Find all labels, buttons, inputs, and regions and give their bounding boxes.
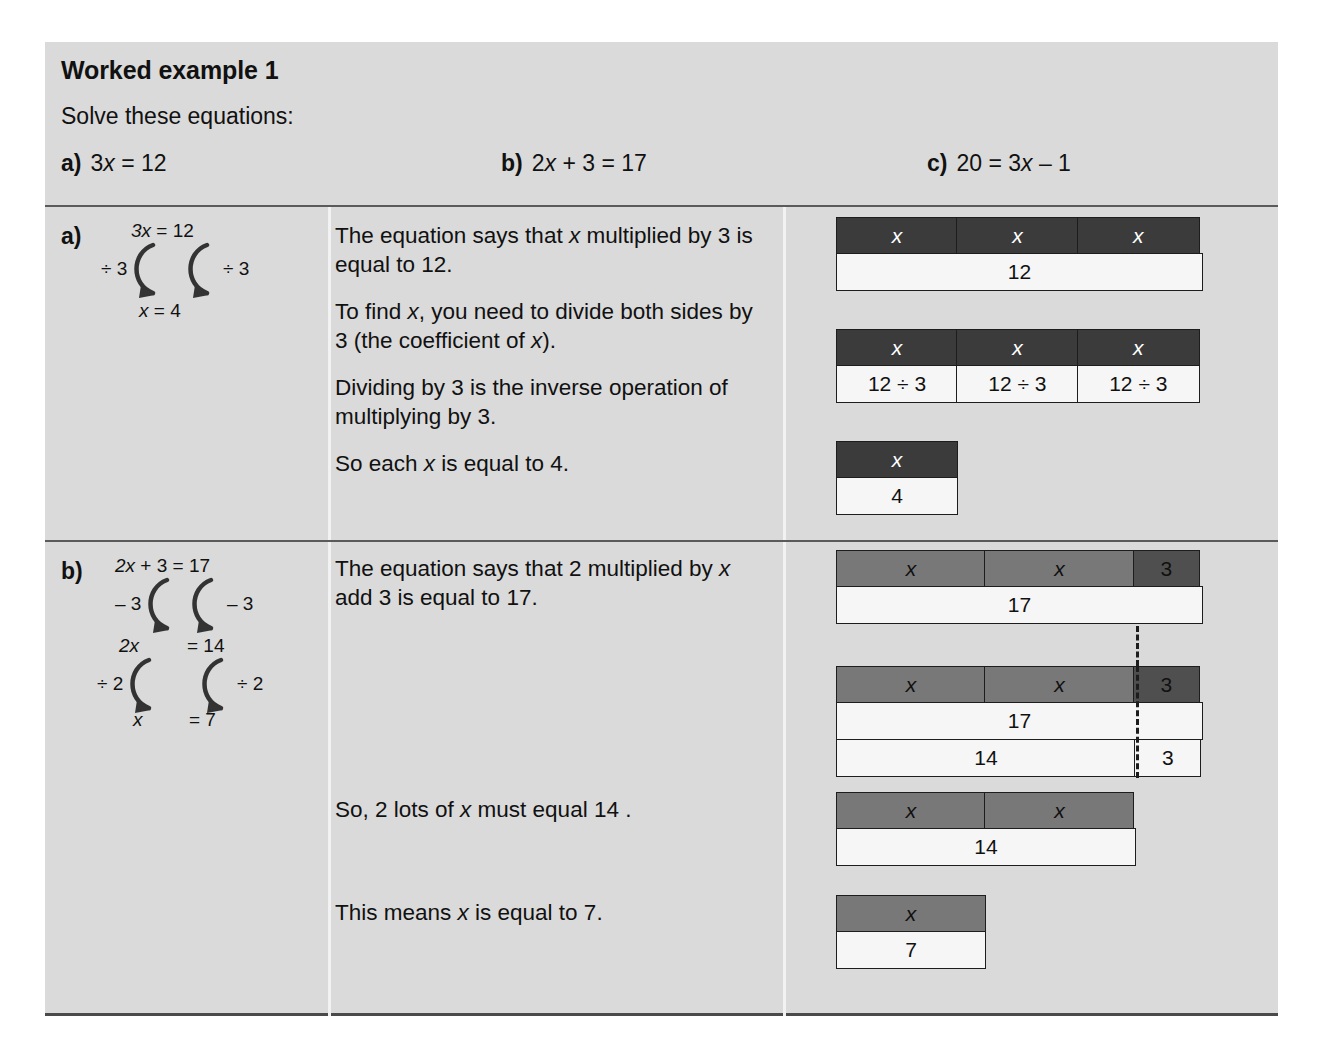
working-column-a: a) 3x = 12 ÷ 3 ÷ 3 x = 4 [45, 207, 328, 540]
bar-model-row: x x x [836, 217, 1203, 255]
header-equation-b: b)2x + 3 = 17 [501, 150, 647, 177]
header-equation-a-label: a) [61, 150, 81, 176]
svg-text:– 3: – 3 [227, 593, 253, 614]
bar-model-row: 17 [836, 702, 1203, 740]
bar-cell: x [836, 441, 958, 479]
bar-cell: x [1077, 217, 1200, 255]
bar-model-row: 12 ÷ 3 12 ÷ 3 12 ÷ 3 [836, 365, 1200, 403]
svg-text:÷ 3: ÷ 3 [101, 258, 127, 279]
bar-model-row: x x [836, 792, 1136, 830]
bar-model-row: 17 [836, 586, 1203, 624]
working-b-diagram: 2x + 3 = 17 – 3 – 3 2x = 14 ÷ 2 ÷ 2 x [97, 548, 327, 728]
explanation-column-a: The equation says that x multiplied by 3… [331, 207, 783, 540]
working-column-b: b) 2x + 3 = 17 – 3 – 3 2x = 14 ÷ 2 ÷ 2 [45, 540, 328, 1016]
bar-cell: x [836, 792, 986, 830]
bar-cell: x [1077, 329, 1200, 367]
bar-cell: x [956, 217, 1078, 255]
bar-cell: 17 [836, 702, 1203, 740]
bar-model-row: 7 [836, 931, 986, 969]
bar-model-a-3: x 4 [836, 441, 958, 515]
svg-text:2x + 3 = 17: 2x + 3 = 17 [114, 555, 210, 576]
row-a-letter: a) [61, 223, 81, 250]
bar-cell: x [836, 895, 986, 933]
bar-cell: 3 [1134, 739, 1201, 777]
bar-cell: x [836, 666, 986, 704]
svg-text:÷ 2: ÷ 2 [237, 673, 263, 694]
explanation-b-p1: The equation says that 2 multiplied by x… [335, 554, 765, 612]
bar-cell: x [956, 329, 1078, 367]
header-equation-a: a)3x = 12 [61, 150, 167, 177]
bar-cell: 3 [1133, 550, 1200, 588]
column-divider-1 [328, 207, 331, 540]
bar-cell: 12 ÷ 3 [1077, 365, 1200, 403]
bar-model-b-1: x x 3 17 [836, 550, 1203, 624]
explanation-a-p4: So each x is equal to 4. [335, 449, 765, 478]
bar-cell: 12 ÷ 3 [956, 365, 1078, 403]
svg-text:÷ 2: ÷ 2 [97, 673, 123, 694]
dashed-guide-line [1136, 666, 1139, 778]
bar-model-row: 4 [836, 477, 958, 515]
bar-cell: 3 [1133, 666, 1200, 704]
working-a-diagram: 3x = 12 ÷ 3 ÷ 3 x = 4 [101, 213, 321, 323]
table-row-a: a) 3x = 12 ÷ 3 ÷ 3 x = 4 The equation sa… [45, 207, 1278, 540]
explanation-b-p3: This means x is equal to 7. [335, 898, 765, 927]
svg-text:– 3: – 3 [115, 593, 141, 614]
bar-model-b-4: x 7 [836, 895, 986, 969]
explanation-a-p2: To find x, you need to divide both sides… [335, 297, 765, 355]
bar-cell: 4 [836, 477, 958, 515]
header-equation-c-text: 20 = 3x – 1 [956, 150, 1070, 176]
bar-model-row: x x 3 [836, 550, 1203, 588]
svg-text:÷ 3: ÷ 3 [223, 258, 249, 279]
examples-table: a) 3x = 12 ÷ 3 ÷ 3 x = 4 The equation sa… [45, 207, 1278, 1016]
worked-example-panel: Worked example 1 Solve these equations: … [45, 42, 1278, 1016]
row-b-letter: b) [61, 558, 83, 585]
bar-cell: x [984, 550, 1134, 588]
bar-cell: x [984, 666, 1134, 704]
bar-cell: x [836, 550, 986, 588]
svg-text:2x: 2x [118, 635, 141, 656]
bar-model-row: 12 [836, 253, 1203, 291]
svg-text:3x = 12: 3x = 12 [131, 220, 194, 241]
bar-cell: x [836, 329, 958, 367]
bar-model-row: x x 3 [836, 666, 1203, 704]
instruction-text: Solve these equations: [61, 103, 294, 130]
bar-cell: 12 [836, 253, 1203, 291]
bar-model-a-1: x x x 12 [836, 217, 1203, 291]
row-divider [45, 540, 1278, 542]
dashed-guide-line [1136, 626, 1139, 666]
svg-text:x: x [132, 709, 144, 728]
bar-cell: 17 [836, 586, 1203, 624]
bar-model-column-a: x x x 12 x x x 12 ÷ 3 [786, 207, 1278, 540]
bar-model-a-2: x x x 12 ÷ 3 12 ÷ 3 12 ÷ 3 [836, 329, 1200, 403]
explanation-b-p2: So, 2 lots of x must equal 14 . [335, 795, 765, 824]
bar-model-b-2: x x 3 17 14 3 [836, 666, 1203, 777]
page-title: Worked example 1 [61, 56, 278, 85]
bar-cell: 7 [836, 931, 986, 969]
explanation-a-p3: Dividing by 3 is the inverse operation o… [335, 373, 765, 431]
bar-model-column-b: x x 3 17 x x 3 17 [786, 540, 1278, 1016]
bar-cell: x [836, 217, 958, 255]
explanation-a-p1: The equation says that x multiplied by 3… [335, 221, 765, 279]
column-divider-1 [328, 540, 331, 1016]
bar-model-row: x x x [836, 329, 1200, 367]
header-equation-c-label: c) [927, 150, 947, 176]
bar-cell: 14 [836, 739, 1136, 777]
bar-cell: 12 ÷ 3 [836, 365, 958, 403]
bar-cell: x [984, 792, 1134, 830]
svg-text:= 7: = 7 [189, 709, 216, 728]
column-divider-2 [783, 540, 786, 1016]
column-divider-2 [783, 207, 786, 540]
bar-model-row: 14 3 [836, 739, 1203, 777]
header-equation-c: c)20 = 3x – 1 [927, 150, 1071, 177]
bar-cell: 14 [836, 828, 1136, 866]
header-equation-a-text: 3x = 12 [90, 150, 166, 176]
header-equation-b-text: 2x + 3 = 17 [532, 150, 647, 176]
bar-model-row: x [836, 441, 958, 479]
bar-model-row: 14 [836, 828, 1136, 866]
svg-text:x = 4: x = 4 [138, 300, 181, 321]
bar-model-b-3: x x 14 [836, 792, 1136, 866]
panel-header: Worked example 1 Solve these equations: … [45, 42, 1278, 206]
svg-text:= 14: = 14 [187, 635, 225, 656]
explanation-column-b: The equation says that 2 multiplied by x… [331, 540, 783, 1016]
table-row-b: b) 2x + 3 = 17 – 3 – 3 2x = 14 ÷ 2 ÷ 2 [45, 540, 1278, 1016]
